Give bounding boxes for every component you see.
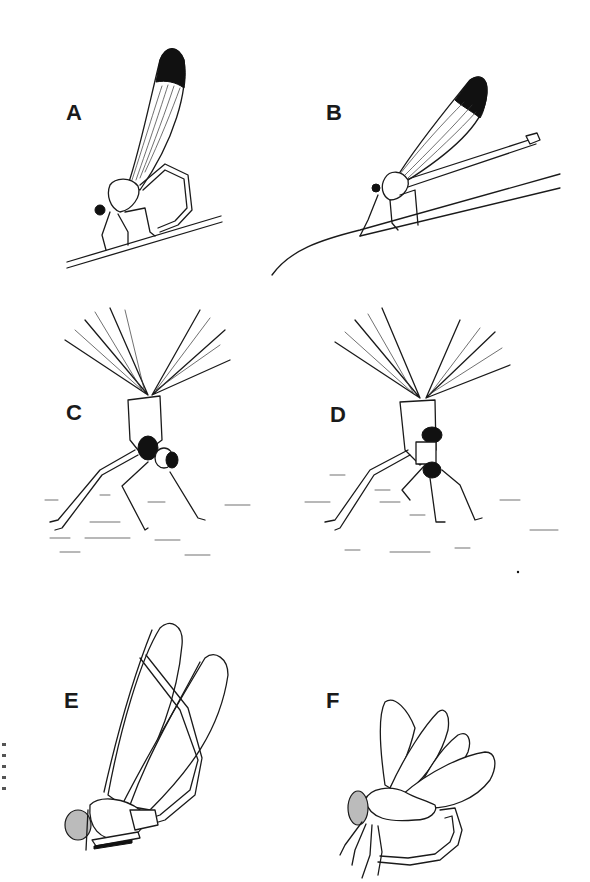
damselfly-drawing-d	[290, 290, 590, 590]
damselfly-drawing-a	[0, 0, 295, 290]
panel-e: E	[0, 600, 300, 882]
damselfly-drawing-e	[0, 600, 300, 882]
panel-b: B	[260, 60, 590, 290]
damselfly-drawing-f	[290, 640, 590, 882]
panel-d: D	[290, 290, 590, 590]
panel-a: A	[0, 0, 295, 290]
panel-f: F	[290, 640, 590, 882]
margin-marks	[0, 735, 8, 845]
damselfly-drawing-c	[30, 290, 300, 570]
panel-c: C	[30, 290, 300, 570]
damselfly-drawing-b	[260, 60, 590, 290]
